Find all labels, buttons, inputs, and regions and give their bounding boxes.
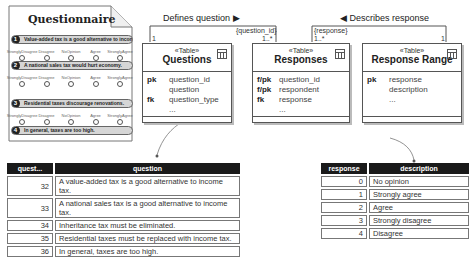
scale-label: StronglyDisagree bbox=[11, 45, 33, 54]
column-row: fkresponse bbox=[257, 95, 345, 105]
scale-label: Disagree bbox=[36, 45, 58, 54]
association-describes-response: ◀ Describes response bbox=[340, 13, 429, 23]
radio-strongly-disagree[interactable] bbox=[19, 119, 25, 125]
column-row: ... bbox=[367, 95, 457, 105]
uml-table-questions: «Table» Questions pkquestion_id question… bbox=[142, 43, 232, 123]
radio-strongly-agree[interactable] bbox=[117, 119, 123, 125]
scale-label: NoOpinion bbox=[60, 109, 82, 118]
question-item-1: 1 Value-added tax is a good alternative … bbox=[11, 35, 133, 44]
column-row: description bbox=[367, 85, 457, 95]
table-row[interactable]: 36In general, taxes are too high. bbox=[7, 246, 240, 257]
qualifier-response: {response} bbox=[314, 27, 347, 34]
column-header[interactable]: question bbox=[55, 163, 240, 174]
column-row: fkquestion_type bbox=[147, 95, 227, 105]
column-row: ... bbox=[147, 105, 227, 115]
radio-no-opinion[interactable] bbox=[68, 119, 74, 125]
multiplicity-response-range: 1 bbox=[441, 35, 445, 42]
table-row[interactable]: 0No opinion bbox=[321, 176, 469, 187]
question-number: 3 bbox=[11, 99, 20, 108]
scale-label: StronglyDisagree bbox=[11, 109, 33, 118]
question-item-3: 3 Residential taxes discourage renovatio… bbox=[11, 99, 133, 108]
radio-disagree[interactable] bbox=[44, 119, 50, 125]
multiplicity-responses-left: 1..* bbox=[262, 35, 273, 42]
radio-agree[interactable] bbox=[93, 119, 99, 125]
table-row[interactable]: 32A value-added tax is a good alternativ… bbox=[7, 176, 240, 196]
column-header[interactable]: response bbox=[321, 163, 367, 174]
column-row: question bbox=[147, 85, 227, 95]
scale-label: Disagree bbox=[36, 109, 58, 118]
response-scale-2: StronglyDisagree Disagree NoOpinion Agre… bbox=[11, 71, 131, 85]
question-text: Value-added tax is a good alternative to… bbox=[24, 36, 133, 42]
radio-strongly-disagree[interactable] bbox=[19, 81, 25, 87]
multiplicity-responses-right: 1..* bbox=[314, 35, 325, 42]
table-icon bbox=[217, 49, 227, 59]
questionnaire-card: Questionnaire 1 Value-added tax is a goo… bbox=[8, 5, 128, 140]
radio-no-opinion[interactable] bbox=[68, 81, 74, 87]
multiplicity-questions: 1 bbox=[152, 35, 156, 42]
scale-label: Disagree bbox=[36, 71, 58, 80]
column-row: f/pkrespondent bbox=[257, 85, 345, 95]
column-row: ... bbox=[257, 105, 345, 115]
scale-label: Agree bbox=[85, 109, 107, 118]
questions-data-table: quest... question 32A value-added tax is… bbox=[5, 161, 242, 259]
scale-label: StronglyAgree bbox=[109, 71, 131, 80]
scale-label: Agree bbox=[85, 45, 107, 54]
uml-table-response-range: «Table» Response Range pkresponse descri… bbox=[362, 43, 462, 123]
table-row[interactable]: 2Agree bbox=[321, 202, 469, 213]
table-row[interactable]: 33A national sales tax is a good alterna… bbox=[7, 198, 240, 218]
scale-label: StronglyAgree bbox=[109, 109, 131, 118]
question-number: 4 bbox=[11, 126, 20, 135]
table-icon bbox=[335, 49, 345, 59]
question-number: 1 bbox=[11, 35, 20, 44]
uml-table-responses: «Table» Responses f/pkquestion_id f/pkre… bbox=[252, 43, 350, 123]
scale-label: NoOpinion bbox=[60, 71, 82, 80]
table-row[interactable]: 3Strongly disagree bbox=[321, 215, 469, 226]
scale-label: NoOpinion bbox=[60, 45, 82, 54]
table-row[interactable]: 1Strongly agree bbox=[321, 189, 469, 200]
scale-label: StronglyDisagree bbox=[11, 71, 33, 80]
radio-agree[interactable] bbox=[93, 81, 99, 87]
scale-label: StronglyAgree bbox=[109, 45, 131, 54]
question-number: 2 bbox=[11, 61, 20, 70]
table-row[interactable]: 34Inheritance tax must be eliminated. bbox=[7, 220, 240, 231]
radio-strongly-agree[interactable] bbox=[117, 81, 123, 87]
response-data-table: response description 0No opinion 1Strong… bbox=[319, 161, 471, 241]
qualifier-question-id: {question_id} bbox=[236, 27, 276, 34]
column-row: pkresponse bbox=[367, 75, 457, 85]
scale-label: Agree bbox=[85, 71, 107, 80]
column-row: pkquestion_id bbox=[147, 75, 227, 85]
question-text: A national sales tax would hurt economy. bbox=[24, 62, 122, 68]
question-item-2: 2 A national sales tax would hurt econom… bbox=[11, 61, 133, 70]
table-row[interactable]: 35Residential taxes must be replaced wit… bbox=[7, 233, 240, 244]
column-header[interactable]: description bbox=[369, 163, 469, 174]
question-text: In general, taxes are too high. bbox=[24, 127, 95, 133]
question-item-4: 4 In general, taxes are too high. bbox=[11, 126, 133, 135]
questionnaire-title: Questionnaire bbox=[28, 13, 110, 26]
response-scale-1: StronglyDisagree Disagree NoOpinion Agre… bbox=[11, 45, 131, 59]
column-header[interactable]: quest... bbox=[7, 163, 53, 174]
table-icon bbox=[447, 49, 457, 59]
column-row: f/pkquestion_id bbox=[257, 75, 345, 85]
question-text: Residential taxes discourage renovations… bbox=[24, 100, 124, 106]
table-row[interactable]: 4Disagree bbox=[321, 228, 469, 239]
radio-disagree[interactable] bbox=[44, 81, 50, 87]
association-defines-question: Defines question ▶ bbox=[163, 13, 240, 23]
response-scale-3: StronglyDisagree Disagree NoOpinion Agre… bbox=[11, 109, 131, 123]
